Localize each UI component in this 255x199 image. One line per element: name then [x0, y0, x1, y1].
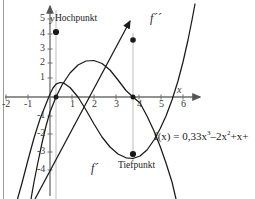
y-tick-label-1: 1 — [40, 72, 45, 82]
point-tiefpunkt — [130, 151, 136, 157]
y-tick-label-4: 4 — [40, 28, 45, 38]
x-tick-label-4: 4 — [137, 99, 142, 109]
y-axis-label: y — [50, 14, 54, 24]
point-f-double-prime — [130, 37, 136, 43]
hochpunkt-label: Hochpunkt — [55, 14, 97, 24]
function-formula: f(x) = 0,33x3–2x2+x+ — [154, 131, 248, 142]
formula-tail: +x+ — [230, 130, 248, 142]
math-figure: -2 -1 1 2 3 4 5 6 5 4 3 2 1 -1 -2 -3 -4 … — [0, 0, 255, 199]
y-tick-label--2: -2 — [37, 128, 45, 138]
y-tick-label--4: -4 — [37, 164, 45, 174]
formula-mid: –2x — [210, 130, 227, 142]
y-tick-label--3: -3 — [37, 146, 45, 156]
tiefpunkt-label: Tiefpunkt — [118, 161, 155, 171]
x-axis-label: x — [177, 85, 181, 95]
y-tick-label-5: 5 — [40, 13, 45, 23]
x-tick-label-1: 1 — [70, 99, 75, 109]
x-tick-label-6: 6 — [181, 99, 186, 109]
y-tick-label-2: 2 — [40, 57, 45, 67]
formula-lead: f(x) = 0,33x — [154, 130, 207, 142]
y-tick-label-3: 3 — [40, 43, 45, 53]
point-f-prime-zero-right — [131, 95, 136, 100]
f-prime-label: f´ — [91, 162, 98, 174]
point-hochpunkt — [53, 29, 59, 35]
x-tick-label--1: -1 — [24, 99, 32, 109]
x-tick-label-5: 5 — [159, 99, 164, 109]
curve-f-double-prime — [35, 21, 130, 199]
x-tick-label--2: -2 — [2, 99, 10, 109]
x-tick-label-2: 2 — [92, 99, 97, 109]
y-tick-label--1: -1 — [37, 110, 45, 120]
point-f-prime-zero-left — [54, 95, 59, 100]
x-tick-label-3: 3 — [114, 99, 119, 109]
f-double-prime-label: f´´ — [150, 12, 161, 24]
